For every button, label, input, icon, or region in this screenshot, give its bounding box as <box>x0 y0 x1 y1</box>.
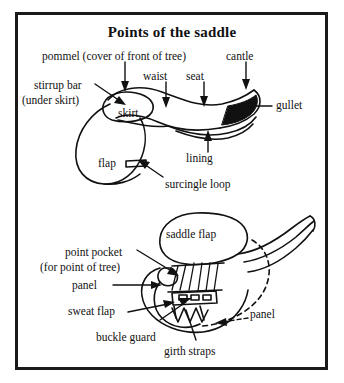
panel-hatching <box>172 263 218 291</box>
label-skirt: skirt <box>118 107 138 120</box>
label-cantle: cantle <box>226 50 253 63</box>
label-point-pocket-line2: (for point of tree) <box>40 260 120 274</box>
label-stirrup-bar-line1: stirrup bar <box>34 78 82 92</box>
arrowhead-cantle <box>242 79 250 90</box>
label-flap: flap <box>98 157 116 170</box>
label-gullet: gullet <box>276 99 302 112</box>
label-seat: seat <box>186 70 204 83</box>
label-lining: lining <box>186 152 213 165</box>
label-surcingle-loop: surcingle loop <box>165 178 230 191</box>
figure-page: Points of the saddle pommel (cover of fr… <box>0 0 344 383</box>
buckle-hole-2 <box>191 295 199 300</box>
arrowhead-panel-right <box>215 318 227 326</box>
arrowhead-waist <box>162 97 170 108</box>
label-panel-right: panel <box>250 308 275 321</box>
label-saddle-flap: saddle flap <box>166 228 216 241</box>
label-sweat-flap: sweat flap <box>68 305 115 318</box>
label-pommel: pommel (cover of front of tree) <box>42 50 186 63</box>
figure-title: Points of the saddle <box>0 24 344 41</box>
label-waist: waist <box>143 70 167 83</box>
label-buckle-guard: buckle guard <box>96 331 156 344</box>
label-point-pocket-line1: point pocket <box>65 245 122 259</box>
flap-bottom-edge <box>104 174 140 184</box>
seat-top-curve <box>108 88 254 105</box>
buckle-hole-3 <box>203 295 211 300</box>
label-stirrup-bar-line2: (under skirt) <box>22 93 79 107</box>
label-panel-left: panel <box>72 279 97 292</box>
point-pocket-shape <box>158 268 177 286</box>
girth-strap-edge-1 <box>174 306 176 318</box>
label-girth-straps: girth straps <box>164 345 215 358</box>
